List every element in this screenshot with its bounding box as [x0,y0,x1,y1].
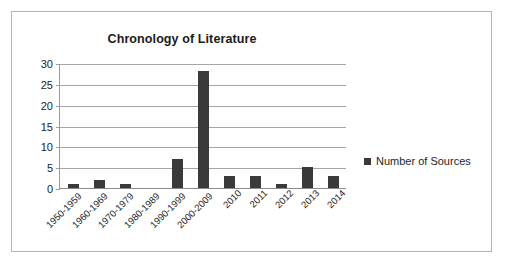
chart-container: Chronology of Literature 051015202530 19… [11,11,492,252]
bar[interactable] [68,184,79,188]
x-axis: 1950-19591960-19691970-19791980-19891990… [60,190,347,250]
bar[interactable] [172,159,183,188]
bar-slot [190,64,216,188]
bar[interactable] [328,176,339,189]
y-axis-tick-label: 25 [12,79,53,90]
bar-slot [242,64,268,188]
bar-series [60,64,346,188]
bar-slot [164,64,190,188]
x-axis-tick-label: 2012 [273,188,296,211]
x-axis-slot: 2011 [243,190,269,250]
y-axis-tick-label: 5 [12,163,53,174]
bar-slot [320,64,346,188]
y-axis: 051015202530 [12,64,53,189]
bar[interactable] [94,180,105,188]
bar-slot [60,64,86,188]
bar[interactable] [250,176,261,189]
chart-legend: Number of Sources [364,155,471,167]
x-axis-slot: 2012 [269,190,295,250]
y-axis-tick-label: 10 [12,142,53,153]
x-axis-slot: 2010 [217,190,243,250]
legend-label: Number of Sources [376,155,471,167]
axis-baseline [60,188,346,189]
plot-area [59,64,346,189]
x-axis-tick-label: 2010 [220,188,243,211]
x-axis-tick-label: 2013 [299,188,322,211]
x-axis-tick-label: 2011 [247,188,269,210]
x-axis-tick-label: 2014 [325,188,348,211]
bar-slot [294,64,320,188]
y-axis-tick-label: 30 [12,59,53,70]
bar-slot [112,64,138,188]
bar-slot [138,64,164,188]
chart-title: Chronology of Literature [12,32,352,46]
x-axis-slot: 2014 [321,190,347,250]
bar[interactable] [302,167,313,188]
bar-slot [268,64,294,188]
x-axis-slot: 2013 [295,190,321,250]
bar[interactable] [276,184,287,188]
bar[interactable] [120,184,131,188]
y-axis-tick-label: 20 [12,100,53,111]
bar-slot [216,64,242,188]
y-axis-tick-label: 15 [12,121,53,132]
bar[interactable] [198,71,209,188]
x-axis-slot: 2000-2009 [190,190,216,250]
y-axis-tick-label: 0 [12,184,53,195]
bar[interactable] [224,176,235,189]
bar-slot [86,64,112,188]
legend-swatch-icon [364,158,371,165]
